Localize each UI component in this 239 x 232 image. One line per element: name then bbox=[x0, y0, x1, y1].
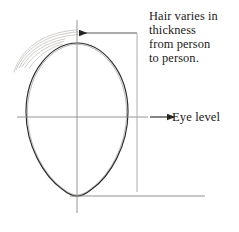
head-proportion-figure: Hair varies in thickness from person to … bbox=[0, 0, 239, 232]
eye-level-label: Eye level bbox=[172, 110, 220, 124]
hair-note-line-1: Hair varies in bbox=[149, 9, 239, 23]
hair-sketch-strokes bbox=[14, 30, 79, 72]
hair-note-line-3: from person bbox=[149, 37, 239, 51]
hair-note-line-2: thickness bbox=[149, 23, 239, 37]
hair-note-line-4: to person. bbox=[149, 51, 239, 65]
hair-note-text: Hair varies in thickness from person to … bbox=[149, 9, 239, 65]
